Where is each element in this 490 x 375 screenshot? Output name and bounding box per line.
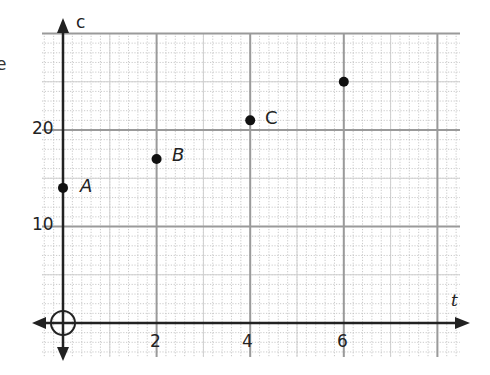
data-point-b xyxy=(152,154,162,164)
data-point-c xyxy=(245,115,255,125)
data-point-a xyxy=(58,183,68,193)
edge-text-fragment: e xyxy=(0,56,6,73)
x-axis-arrow-right-icon xyxy=(455,317,470,329)
y-tick-label-20: 20 xyxy=(32,120,54,137)
y-axis-label: c xyxy=(76,14,85,31)
x-tick-label-4: 4 xyxy=(242,333,253,350)
y-tick-label-10: 10 xyxy=(32,216,54,233)
point-label-b: B xyxy=(172,146,184,164)
y-axis-arrow-up-icon xyxy=(57,18,69,33)
x-axis-arrow-left-icon xyxy=(32,317,46,329)
x-axis-label: t xyxy=(451,292,458,309)
data-point xyxy=(339,77,349,87)
y-axis-arrow-down-icon xyxy=(57,347,69,361)
x-tick-label-2: 2 xyxy=(150,333,161,350)
coordinate-grid xyxy=(0,0,490,375)
point-label-a: A xyxy=(80,177,92,195)
x-tick-label-6: 6 xyxy=(337,333,348,350)
point-label-c: C xyxy=(265,109,278,127)
